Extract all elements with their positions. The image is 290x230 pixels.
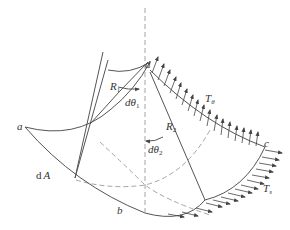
label-dtheta2: dθ2 <box>148 143 163 157</box>
dashed-arc-lower <box>76 130 210 187</box>
label-dA: dA <box>36 169 51 181</box>
label-d: d <box>145 58 151 70</box>
label-b: b <box>117 204 123 216</box>
label-R1: R1 <box>109 80 121 94</box>
dtheta2-arrow <box>146 137 163 141</box>
label-dtheta1: dθ1 <box>125 96 140 110</box>
meridian-left <box>75 60 108 178</box>
label-c: c <box>264 137 269 149</box>
dtheta1-arrow <box>118 87 139 89</box>
label-T-s: Ts <box>263 182 272 196</box>
label-a: a <box>17 120 23 132</box>
shell-element-diagram: a b c d dA R1 dθ1 R2 dθ2 Tθ Ts <box>0 0 290 230</box>
edge-c-b <box>205 147 265 200</box>
edge-d-c <box>150 70 265 147</box>
label-R2: R2 <box>165 120 177 134</box>
label-T-theta: Tθ <box>205 92 215 106</box>
